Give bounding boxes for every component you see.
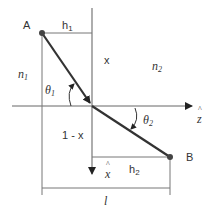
h1-label: h1: [62, 20, 73, 33]
point-a-marker: [39, 30, 45, 36]
theta1-label: θ1: [45, 84, 55, 98]
point-a-label: A: [23, 20, 30, 31]
diagram-canvas: [0, 0, 214, 217]
theta2-label: θ2: [143, 114, 153, 128]
one-minus-x-label: 1 - x: [62, 130, 83, 141]
refracted-ray: [92, 106, 170, 157]
x-axis-label: x: [105, 168, 110, 180]
point-b-label: B: [186, 152, 193, 163]
point-b-marker: [167, 154, 173, 160]
n1-label: n1: [18, 68, 28, 82]
h2-label: h2: [129, 164, 140, 177]
z-axis-label: z: [197, 113, 202, 125]
x-segment-label: x: [104, 55, 110, 66]
n2-label: n2: [152, 60, 162, 74]
theta1-arc: [69, 84, 74, 106]
length-label: l: [104, 195, 107, 207]
theta2-arc: [131, 108, 137, 129]
